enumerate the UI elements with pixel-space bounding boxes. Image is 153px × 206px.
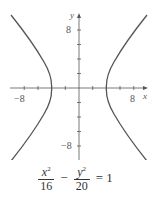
equation: x2 16 − y2 20 = 1 (0, 163, 153, 193)
y-tick-label-neg8: −8 (61, 140, 72, 151)
hyperbola-plot: −8 8 8 −8 x y (0, 0, 153, 160)
x-axis-arrow-icon (143, 86, 148, 90)
fraction-y2-over-20: y2 20 (74, 163, 90, 193)
equals-one: = 1 (96, 170, 113, 186)
hyperbola-left-branch (11, 15, 52, 160)
y-axis-label: y (69, 10, 74, 20)
fraction-x2-over-16: x2 16 (38, 163, 54, 193)
x-tick-label-neg8: −8 (14, 93, 25, 104)
x-tick-label-8: 8 (130, 93, 135, 104)
y-axis-arrow-icon (77, 13, 81, 18)
minus-sign: − (60, 170, 67, 186)
hyperbola-right-branch (106, 15, 147, 160)
x-axis-label: x (142, 91, 147, 101)
y-tick-label-8: 8 (66, 24, 71, 35)
